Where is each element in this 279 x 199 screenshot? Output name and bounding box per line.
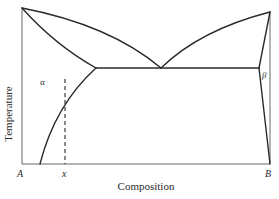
phase-diagram-canvas — [0, 0, 279, 199]
x-axis-label: Composition — [118, 180, 175, 192]
phase-label-beta: β — [262, 70, 266, 80]
y-axis-label: Temperature — [2, 86, 14, 141]
solidus-beta — [259, 12, 270, 68]
solvus-alpha — [40, 68, 96, 164]
phase-boundaries — [22, 8, 270, 164]
tick-label-x: x — [62, 168, 66, 179]
tick-label-a: A — [17, 168, 23, 179]
liquidus-right — [161, 12, 270, 68]
axes — [22, 8, 270, 164]
solvus-beta — [259, 68, 270, 164]
liquidus-left — [22, 8, 161, 68]
phase-label-alpha: α — [40, 77, 45, 87]
tick-label-b: B — [265, 168, 271, 179]
